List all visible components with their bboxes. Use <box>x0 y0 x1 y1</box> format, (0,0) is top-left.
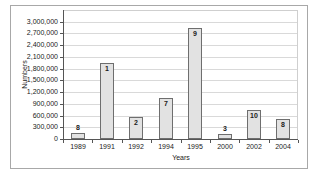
bar-value-label: 2 <box>126 119 146 127</box>
bar-value-label: 1 <box>97 65 117 73</box>
y-tick-label: 2,400,000 <box>12 41 58 49</box>
gridline <box>64 92 297 93</box>
bar-1995 <box>188 28 202 139</box>
y-tick-label: 3,000,000 <box>12 18 58 26</box>
y-axis-line <box>63 10 64 140</box>
bar-value-label: 10 <box>244 112 264 120</box>
bar-value-label: 8 <box>273 121 293 129</box>
y-tick-label: 0 <box>12 135 58 143</box>
bar-2000 <box>218 134 232 139</box>
bar-value-label: 3 <box>215 125 235 133</box>
gridline <box>64 104 297 105</box>
gridline <box>64 80 297 81</box>
x-axis-title: Years <box>159 153 203 162</box>
y-tick-label: 600,000 <box>12 112 58 120</box>
gridline <box>64 45 297 46</box>
y-axis-title: Numbers <box>20 53 29 97</box>
plot-outline <box>63 10 298 140</box>
bar-1989 <box>71 133 85 139</box>
x-tick-label: 1994 <box>152 143 180 151</box>
x-tick-label: 2004 <box>269 143 297 151</box>
gridline <box>64 22 297 23</box>
x-tick-label: 1992 <box>122 143 150 151</box>
x-tick-label: 1991 <box>93 143 121 151</box>
bar-value-label: 8 <box>68 124 88 132</box>
x-tick-label: 1989 <box>64 143 92 151</box>
bar-value-label: 7 <box>156 100 176 108</box>
gridline <box>64 127 297 128</box>
gridline <box>64 57 297 58</box>
x-tick-label: 2000 <box>211 143 239 151</box>
x-axis-tick <box>298 140 299 143</box>
x-tick-label: 2002 <box>240 143 268 151</box>
gridline <box>64 33 297 34</box>
y-tick-label: 900,000 <box>12 100 58 108</box>
y-tick-label: 300,000 <box>12 123 58 131</box>
y-tick-label: 2,700,000 <box>12 29 58 37</box>
bar-1991 <box>100 63 114 139</box>
x-tick-label: 1995 <box>181 143 209 151</box>
bar-value-label: 9 <box>185 30 205 38</box>
